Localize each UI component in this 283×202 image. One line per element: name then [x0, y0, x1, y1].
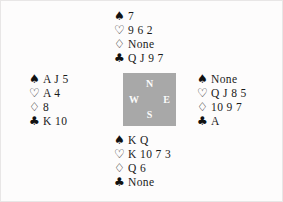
- hand-east: ♠ None ♡ Q J 8 5 ♢ 10 9 7 ♣ A: [197, 72, 247, 128]
- bridge-hand-diagram: ♠ 7 ♡ 9 6 2 ♢ None ♣ Q J 9 7 ♠ A J 5 ♡ A…: [0, 0, 283, 202]
- spade-icon: ♠: [197, 72, 211, 86]
- hand-north-spades-cards: 7: [128, 9, 134, 23]
- hand-west-spades-cards: A J 5: [43, 72, 69, 86]
- diamond-icon: ♢: [29, 100, 43, 114]
- spade-icon: ♠: [114, 9, 128, 23]
- heart-icon: ♡: [114, 147, 128, 161]
- hand-north-hearts-row: ♡ 9 6 2: [114, 23, 164, 37]
- hand-south: ♠ K Q ♡ K 10 7 3 ♢ Q 6 ♣ None: [114, 133, 171, 189]
- diamond-icon: ♢: [197, 100, 211, 114]
- hand-west: ♠ A J 5 ♡ A 4 ♢ 8 ♣ K 10: [29, 72, 69, 128]
- club-icon: ♣: [114, 51, 128, 65]
- hand-west-hearts-cards: A 4: [43, 86, 61, 100]
- hand-west-hearts-row: ♡ A 4: [29, 86, 69, 100]
- compass-box: N W E S: [123, 73, 176, 126]
- hand-north-diamonds-cards: None: [128, 37, 155, 51]
- hand-south-spades-row: ♠ K Q: [114, 133, 171, 147]
- hand-north-spades-row: ♠ 7: [114, 9, 164, 23]
- hand-west-diamonds-cards: 8: [43, 100, 49, 114]
- hand-east-hearts-cards: Q J 8 5: [211, 86, 247, 100]
- heart-icon: ♡: [114, 23, 128, 37]
- hand-east-diamonds-row: ♢ 10 9 7: [197, 100, 247, 114]
- hand-west-clubs-row: ♣ K 10: [29, 114, 69, 128]
- club-icon: ♣: [197, 114, 211, 128]
- hand-east-clubs-row: ♣ A: [197, 114, 247, 128]
- hand-east-hearts-row: ♡ Q J 8 5: [197, 86, 247, 100]
- hand-south-clubs-cards: None: [128, 175, 155, 189]
- hand-east-spades-cards: None: [211, 72, 238, 86]
- spade-icon: ♠: [29, 72, 43, 86]
- hand-south-hearts-cards: K 10 7 3: [128, 147, 171, 161]
- hand-east-spades-row: ♠ None: [197, 72, 247, 86]
- hand-east-clubs-cards: A: [211, 114, 220, 128]
- hand-west-diamonds-row: ♢ 8: [29, 100, 69, 114]
- hand-south-diamonds-row: ♢ Q 6: [114, 161, 171, 175]
- hand-south-clubs-row: ♣ None: [114, 175, 171, 189]
- heart-icon: ♡: [197, 86, 211, 100]
- hand-west-clubs-cards: K 10: [43, 114, 67, 128]
- spade-icon: ♠: [114, 133, 128, 147]
- hand-north: ♠ 7 ♡ 9 6 2 ♢ None ♣ Q J 9 7: [114, 9, 164, 65]
- hand-east-diamonds-cards: 10 9 7: [211, 100, 242, 114]
- hand-north-hearts-cards: 9 6 2: [128, 23, 153, 37]
- club-icon: ♣: [29, 114, 43, 128]
- hand-south-spades-cards: K Q: [128, 133, 149, 147]
- hand-west-spades-row: ♠ A J 5: [29, 72, 69, 86]
- club-icon: ♣: [114, 175, 128, 189]
- diamond-icon: ♢: [114, 37, 128, 51]
- diamond-icon: ♢: [114, 161, 128, 175]
- hand-north-diamonds-row: ♢ None: [114, 37, 164, 51]
- heart-icon: ♡: [29, 86, 43, 100]
- hand-north-clubs-cards: Q J 9 7: [128, 51, 164, 65]
- compass-label-south: S: [123, 110, 176, 120]
- hand-south-diamonds-cards: Q 6: [128, 161, 146, 175]
- hand-south-hearts-row: ♡ K 10 7 3: [114, 147, 171, 161]
- hand-north-clubs-row: ♣ Q J 9 7: [114, 51, 164, 65]
